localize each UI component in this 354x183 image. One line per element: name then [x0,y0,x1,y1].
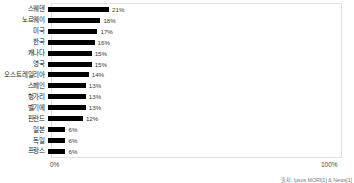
bar [48,7,109,12]
bar-zone: 15% [48,48,339,59]
bar [48,62,92,67]
table-row: 영국 15% [0,59,354,70]
bar-zone: 6% [48,146,339,157]
bar-zone: 15% [48,59,339,70]
category-label: 영국 [0,60,48,68]
bar [48,40,95,45]
bar-zone: 13% [48,80,339,91]
axis-tick-max: 100% [321,161,338,169]
bar-value-label: 6% [68,148,77,155]
bar-zone: 21% [48,4,339,15]
bar-value-label: 13% [89,93,101,100]
bar-value-label: 6% [68,126,77,133]
table-row: 핀란드 12% [0,113,354,124]
bar [48,116,83,121]
bar-zone: 6% [48,124,339,135]
bar [48,72,89,77]
bar-value-label: 18% [103,17,115,24]
table-row: 벨기에 13% [0,102,354,113]
bar-value-label: 13% [89,82,101,89]
bar [48,83,86,88]
bar-value-label: 6% [68,137,77,144]
bar [48,18,100,23]
table-row: 오스트레일리아 14% [0,70,354,81]
category-label: 프랑스 [0,147,48,155]
category-label: 스웨덴 [0,5,48,13]
table-row: 헝가리 13% [0,91,354,102]
category-label: 헝가리 [0,93,48,101]
category-label: 미국 [0,27,48,35]
bar [48,138,65,143]
table-row: 한국 16% [0,37,354,48]
bar-rows: 스웨덴 21% 노르웨이 18% 미국 17% 한국 16% [0,4,354,157]
table-row: 스페인 13% [0,80,354,91]
bar-chart: 스웨덴 21% 노르웨이 18% 미국 17% 한국 16% [0,0,354,183]
bar-zone: 13% [48,102,339,113]
category-label: 벨기에 [0,104,48,112]
bar-value-label: 21% [112,6,124,13]
bar-value-label: 12% [86,115,98,122]
bar-value-label: 13% [89,104,101,111]
bar-zone: 18% [48,15,339,26]
bar-zone: 6% [48,135,339,146]
bar-zone: 12% [48,113,339,124]
bar-value-label: 15% [95,61,107,68]
bar [48,149,65,154]
category-label: 핀란드 [0,115,48,123]
category-label: 독일 [0,137,48,145]
category-label: 일본 [0,126,48,134]
bar [48,51,92,56]
table-row: 독일 6% [0,135,354,146]
bar-value-label: 14% [92,71,104,78]
table-row: 일본 6% [0,124,354,135]
source-note: 출처: Ipsos MORI[1] & News[1] [281,177,352,183]
bar-value-label: 17% [100,28,112,35]
category-label: 노르웨이 [0,16,48,24]
category-label: 캐나다 [0,49,48,57]
category-label: 오스트레일리아 [0,71,48,79]
bar [48,105,86,110]
bar-zone: 13% [48,91,339,102]
table-row: 프랑스 6% [0,146,354,157]
bar [48,127,65,132]
table-row: 스웨덴 21% [0,4,354,15]
axis-tick-min: 0% [50,161,59,169]
category-label: 한국 [0,38,48,46]
table-row: 노르웨이 18% [0,15,354,26]
bar-zone: 16% [48,37,339,48]
bar [48,94,86,99]
category-label: 스페인 [0,82,48,90]
table-row: 미국 17% [0,26,354,37]
bar [48,29,97,34]
bar-zone: 14% [48,70,339,81]
table-row: 캐나다 15% [0,48,354,59]
bar-zone: 17% [48,26,339,37]
bar-value-label: 15% [95,50,107,57]
bar-value-label: 16% [98,39,110,46]
